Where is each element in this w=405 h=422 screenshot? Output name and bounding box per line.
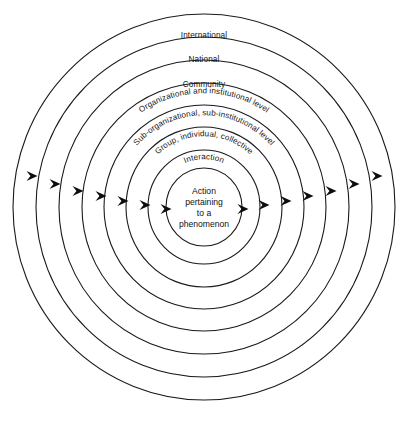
diagram-canvas: InternationalNationalCommunityOrganizati… [0,0,405,422]
center-label-line-2: to a [197,208,212,218]
center-label-line-1: pertaining [185,197,223,207]
arrow-head-left-0 [27,171,38,181]
arrow-head-right-5 [349,179,360,189]
arrow-head-left-1 [50,179,61,189]
ring-circle-5 [126,127,282,287]
ring-label-4: Sub-organizational, sub-institutional le… [132,108,277,147]
ring-label-0: International [181,31,227,40]
concentric-circles-diagram: InternationalNationalCommunityOrganizati… [0,0,405,422]
ring-circle-0 [13,14,395,400]
arrow-head-right-4 [326,186,337,196]
ring-circle-2 [59,60,349,354]
ring-circle-7 [166,168,242,246]
ring-label-1: National [189,55,220,64]
ring-label-6: Interaction [182,152,225,165]
center-label-line-0: Action [192,186,216,196]
center-label-text: Actionpertainingto aphenomenon [179,186,229,229]
center-label: Actionpertainingto aphenomenon [179,186,229,229]
arrow-head-right-0 [238,204,249,214]
arrow-head-left-2 [73,186,84,196]
arrow-head-left-5 [140,200,151,210]
ring-label-textpath-4: Sub-organizational, sub-institutional le… [132,108,277,147]
center-label-line-3: phenomenon [179,219,229,229]
arrow-head-right-6 [372,171,383,181]
ring-labels-group: InternationalNationalCommunityOrganizati… [132,31,277,165]
ring-label-textpath-6: Interaction [182,152,225,165]
ring-circle-3 [82,83,326,331]
rings-group [13,14,395,400]
arrow-head-right-3 [303,191,314,201]
